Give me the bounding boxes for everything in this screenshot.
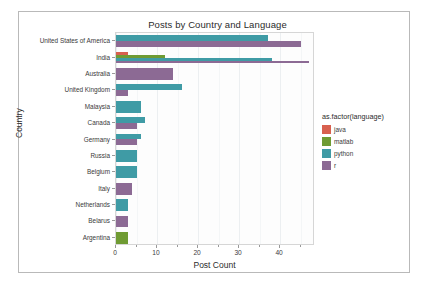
y-tick-mark bbox=[112, 40, 115, 41]
y-tick-mark bbox=[112, 106, 115, 107]
y-tick-label: Canada bbox=[0, 119, 110, 126]
legend-item-matlab[interactable]: matlab bbox=[322, 136, 384, 147]
bar bbox=[116, 183, 132, 195]
bar-group bbox=[116, 68, 313, 80]
legend: as.factor(language) javamatlabpythonr bbox=[322, 112, 384, 172]
legend-item-python[interactable]: python bbox=[322, 148, 384, 159]
bar-group bbox=[116, 134, 313, 146]
y-tick-label: Australia bbox=[0, 69, 110, 76]
x-tick-label: 10 bbox=[152, 249, 159, 256]
y-tick-label: United States of America bbox=[0, 37, 110, 44]
bar-group bbox=[116, 84, 313, 96]
x-tick-mark bbox=[115, 245, 116, 248]
legend-item-r[interactable]: r bbox=[322, 160, 384, 171]
legend-label: python bbox=[334, 150, 353, 157]
legend-title: as.factor(language) bbox=[322, 112, 384, 121]
y-tick-label: Germany bbox=[0, 135, 110, 142]
legend-swatch-icon bbox=[322, 137, 331, 146]
y-tick-label: United Kingdom bbox=[0, 86, 110, 93]
y-tick-mark bbox=[112, 204, 115, 205]
legend-items: javamatlabpythonr bbox=[322, 124, 384, 171]
y-tick-mark bbox=[112, 122, 115, 123]
legend-swatch-icon bbox=[322, 149, 331, 158]
y-tick-mark bbox=[112, 73, 115, 74]
x-tick-mark-minor bbox=[136, 245, 137, 247]
bar bbox=[116, 166, 137, 178]
bar-group bbox=[116, 216, 313, 228]
x-tick-label: 30 bbox=[234, 249, 241, 256]
bar-group bbox=[116, 183, 313, 195]
bar bbox=[116, 232, 128, 244]
bar-group bbox=[116, 199, 313, 211]
x-tick-mark-minor bbox=[177, 245, 178, 247]
legend-label: r bbox=[334, 162, 336, 169]
x-tick-mark bbox=[197, 245, 198, 248]
y-tick-mark bbox=[112, 171, 115, 172]
y-tick-mark bbox=[112, 220, 115, 221]
x-tick-mark-minor bbox=[259, 245, 260, 247]
x-axis-title: Post Count bbox=[115, 260, 314, 270]
x-tick-mark bbox=[279, 245, 280, 248]
bar bbox=[116, 68, 173, 80]
legend-swatch-icon bbox=[322, 161, 331, 170]
bar bbox=[116, 101, 141, 113]
y-tick-mark bbox=[112, 237, 115, 238]
y-tick-label: Belarus bbox=[0, 217, 110, 224]
plot-panel bbox=[115, 32, 314, 245]
bar bbox=[116, 61, 309, 64]
y-tick-label: Russia bbox=[0, 151, 110, 158]
x-tick-mark bbox=[156, 245, 157, 248]
legend-label: java bbox=[334, 126, 346, 133]
y-tick-label: Italy bbox=[0, 184, 110, 191]
legend-swatch-icon bbox=[322, 125, 331, 134]
legend-item-java[interactable]: java bbox=[322, 124, 384, 135]
bar-group bbox=[116, 117, 313, 129]
bar bbox=[116, 150, 137, 162]
x-tick-mark-minor bbox=[218, 245, 219, 247]
bar bbox=[116, 90, 128, 96]
y-tick-label: Netherlands bbox=[0, 201, 110, 208]
page-title: Posts by Country and Language bbox=[110, 19, 325, 30]
bar bbox=[116, 123, 137, 129]
bar-group bbox=[116, 150, 313, 162]
bar bbox=[116, 139, 137, 145]
y-tick-mark bbox=[112, 155, 115, 156]
y-tick-label: India bbox=[0, 53, 110, 60]
y-tick-mark bbox=[112, 188, 115, 189]
x-tick-mark bbox=[238, 245, 239, 248]
y-tick-label: Belgium bbox=[0, 168, 110, 175]
y-tick-mark bbox=[112, 57, 115, 58]
y-tick-mark bbox=[112, 139, 115, 140]
bar-group bbox=[116, 52, 313, 64]
chart-figure: Posts by Country and Language Country Un… bbox=[0, 0, 428, 291]
x-tick-label: 40 bbox=[275, 249, 282, 256]
legend-label: matlab bbox=[334, 138, 353, 145]
x-tick-label: 20 bbox=[193, 249, 200, 256]
y-tick-label: Malaysia bbox=[0, 102, 110, 109]
y-tick-mark bbox=[112, 89, 115, 90]
x-tick-label: 0 bbox=[113, 249, 117, 256]
x-tick-mark-minor bbox=[300, 245, 301, 247]
bar bbox=[116, 216, 128, 228]
y-tick-label: Argentina bbox=[0, 233, 110, 240]
bar-group bbox=[116, 166, 313, 178]
bar bbox=[116, 199, 128, 211]
bar-group bbox=[116, 35, 313, 47]
bar-group bbox=[116, 232, 313, 244]
bar bbox=[116, 41, 301, 47]
bar-group bbox=[116, 101, 313, 113]
